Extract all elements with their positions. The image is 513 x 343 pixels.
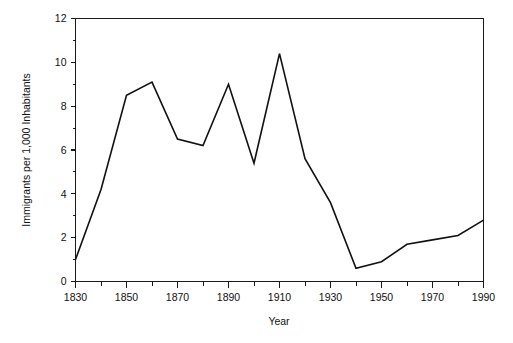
y-tick-label: 4 [61,188,67,200]
x-tick-label: 1850 [115,291,139,303]
x-tick-label: 1950 [370,291,394,303]
x-tick-label: 1990 [472,291,496,303]
x-tick-label: 1890 [217,291,241,303]
immigration-rate-chart: 024681012 183018501870189019101930195019… [0,0,513,343]
y-axis-title: Immigrants per 1,000 Inhabitants [20,73,32,227]
y-axis-tick-labels: 024681012 [55,12,67,287]
data-series-line [76,54,484,269]
x-axis-ticks [76,282,484,288]
y-axis-ticks [71,19,76,282]
chart-canvas: 024681012 183018501870189019101930195019… [0,0,513,343]
x-tick-label: 1830 [64,291,88,303]
x-tick-label: 1870 [166,291,190,303]
x-tick-label: 1910 [268,291,292,303]
x-tick-label: 1930 [319,291,343,303]
x-tick-label: 1970 [421,291,445,303]
y-tick-label: 2 [61,231,67,243]
x-axis-title: Year [268,315,290,327]
y-tick-label: 8 [61,100,67,112]
y-tick-label: 12 [55,12,67,24]
y-tick-label: 0 [61,275,67,287]
x-axis-tick-labels: 183018501870189019101930195019701990 [64,291,496,303]
y-tick-label: 10 [55,56,67,68]
y-tick-label: 6 [61,144,67,156]
